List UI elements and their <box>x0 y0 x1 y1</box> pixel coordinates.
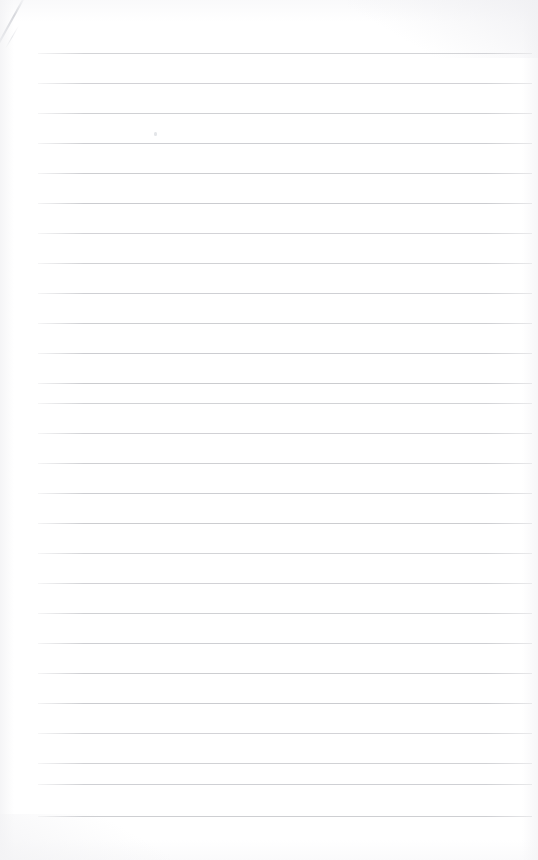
scanned-notepad-page <box>0 0 538 860</box>
page-body-text <box>42 40 522 820</box>
